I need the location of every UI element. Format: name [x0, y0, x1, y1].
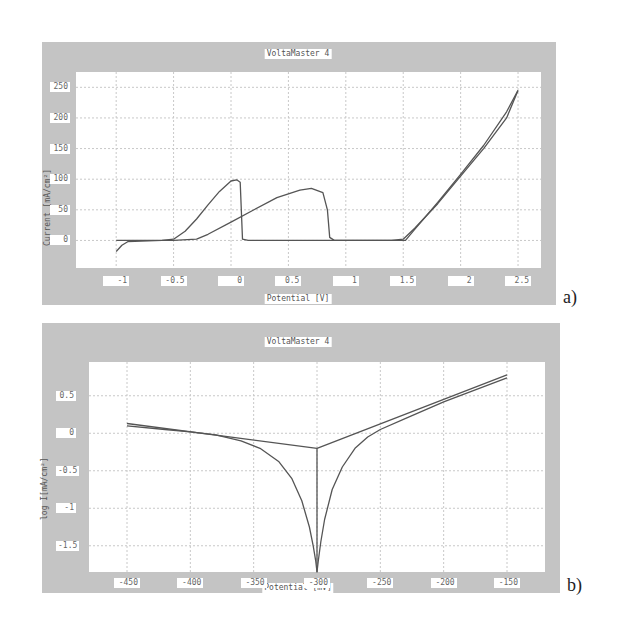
chart-a-series-line — [116, 90, 518, 251]
chart-a-series-line — [116, 90, 518, 240]
chart-plot-lines — [0, 0, 621, 632]
